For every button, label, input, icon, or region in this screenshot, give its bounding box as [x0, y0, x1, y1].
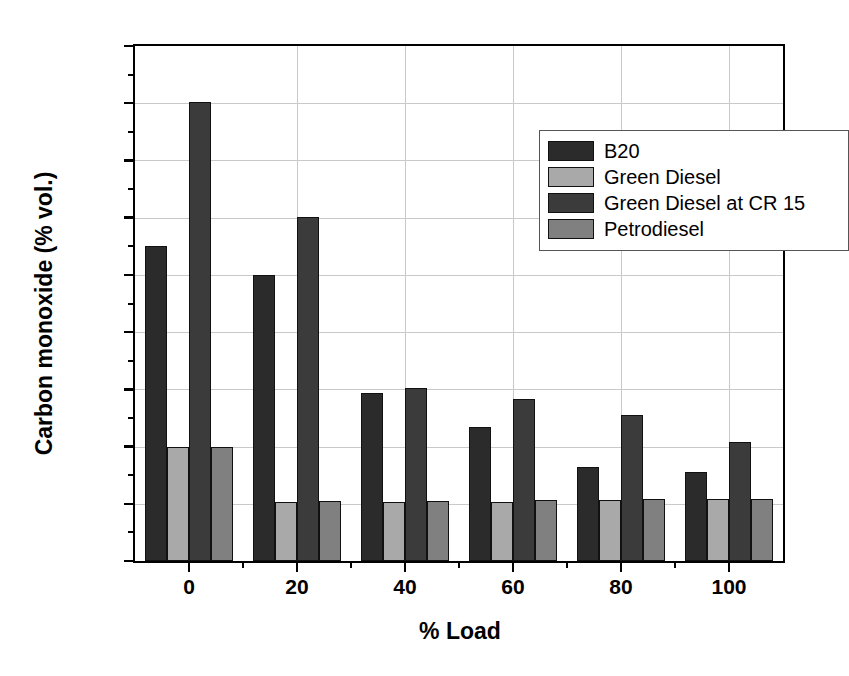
x-tick-major [404, 561, 407, 572]
bar [577, 467, 599, 561]
x-tick-major [188, 561, 191, 572]
bar [685, 472, 707, 561]
y-tick-major [124, 560, 135, 563]
legend-label: Petrodiesel [604, 218, 704, 241]
x-tick-label: 20 [257, 575, 337, 599]
y-tick-minor [128, 131, 135, 133]
bar [297, 217, 319, 561]
y-tick-major [124, 159, 135, 162]
x-tick-label: 100 [689, 575, 769, 599]
x-tick-major [512, 561, 515, 572]
x-tick-minor [242, 561, 244, 568]
plot-area: 0.000.010.020.030.040.050.060.070.080.09… [133, 44, 785, 563]
x-axis-title: % Load [130, 618, 790, 645]
gridline-horizontal [135, 389, 783, 390]
legend-label: Green Diesel [604, 166, 721, 189]
bar [319, 501, 341, 561]
bar [405, 388, 427, 561]
bar [253, 275, 275, 561]
y-tick-minor [128, 74, 135, 76]
bar [535, 500, 557, 561]
y-tick-minor [128, 417, 135, 419]
x-tick-minor [674, 561, 676, 568]
bar [729, 442, 751, 561]
bar [751, 499, 773, 561]
y-tick-minor [128, 474, 135, 476]
x-tick-label: 80 [581, 575, 661, 599]
legend-label: B20 [604, 140, 640, 163]
x-tick-major [620, 561, 623, 572]
bar [145, 246, 167, 561]
bar [167, 447, 189, 561]
bar [469, 427, 491, 561]
bar [491, 502, 513, 562]
legend-item: Green Diesel [548, 164, 838, 190]
x-tick-label: 60 [473, 575, 553, 599]
bar [513, 399, 535, 562]
y-tick-major [124, 102, 135, 105]
chart-legend: B20 Green Diesel Green Diesel at CR 15 P… [539, 130, 849, 251]
y-tick-major [124, 216, 135, 219]
x-tick-minor [566, 561, 568, 568]
y-tick-major [124, 388, 135, 391]
legend-item: B20 [548, 138, 838, 164]
bar [189, 102, 211, 561]
bar [361, 393, 383, 561]
bar [427, 501, 449, 561]
bar [599, 500, 621, 561]
y-tick-minor [128, 360, 135, 362]
y-tick-major [124, 274, 135, 277]
gridline-horizontal [135, 275, 783, 276]
y-axis-title: Carbon monoxide (% vol.) [31, 84, 58, 544]
legend-swatch-petrodiesel [548, 219, 594, 239]
legend-item: Green Diesel at CR 15 [548, 190, 838, 216]
legend-swatch-green-diesel-cr15 [548, 193, 594, 213]
y-tick-minor [128, 303, 135, 305]
gridline-horizontal [135, 103, 783, 104]
x-tick-label: 40 [365, 575, 445, 599]
bar [383, 502, 405, 562]
gridline-horizontal [135, 332, 783, 333]
y-tick-major [124, 45, 135, 48]
y-tick-major [124, 331, 135, 334]
y-tick-minor [128, 245, 135, 247]
bar [275, 502, 297, 561]
y-tick-minor [128, 188, 135, 190]
bar [643, 499, 665, 561]
legend-swatch-green-diesel [548, 167, 594, 187]
bar [621, 415, 643, 561]
bar [211, 447, 233, 561]
x-tick-minor [458, 561, 460, 568]
bar [707, 499, 729, 561]
x-tick-major [296, 561, 299, 572]
x-tick-minor [350, 561, 352, 568]
y-tick-minor [128, 531, 135, 533]
x-tick-label: 0 [149, 575, 229, 599]
legend-item: Petrodiesel [548, 216, 838, 242]
y-tick-major [124, 445, 135, 448]
legend-label: Green Diesel at CR 15 [604, 192, 805, 215]
y-tick-major [124, 503, 135, 506]
legend-swatch-b20 [548, 141, 594, 161]
x-tick-major [728, 561, 731, 572]
